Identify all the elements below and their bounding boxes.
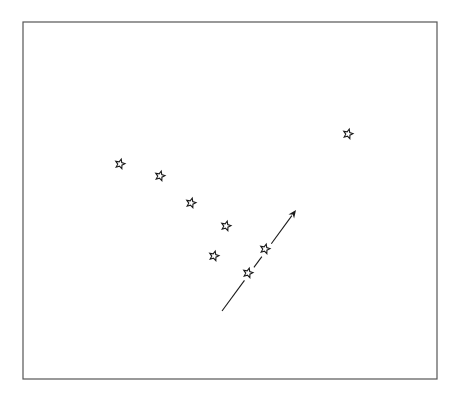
star-diagram [0, 0, 457, 395]
star-icon [222, 221, 231, 230]
arrow-shaft-segment [271, 216, 292, 244]
arrow-shaft-segment [222, 280, 244, 311]
arrow-shaft-segment [254, 257, 262, 268]
diagram-frame [23, 22, 437, 379]
arrow-head-icon [288, 210, 296, 219]
motion-arrow [222, 210, 296, 311]
star-icon [261, 244, 270, 253]
star-group [116, 129, 353, 277]
star-icon [210, 251, 219, 260]
star-icon [344, 129, 353, 138]
star-icon [244, 268, 253, 277]
star-icon [187, 198, 196, 207]
star-icon [156, 171, 165, 180]
star-icon [116, 159, 125, 168]
